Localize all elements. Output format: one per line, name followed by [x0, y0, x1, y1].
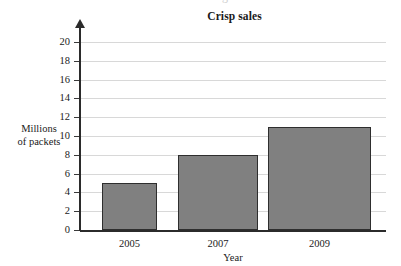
y-axis-tick-label: 20 — [44, 37, 70, 47]
x-axis-title: Year — [80, 252, 386, 263]
y-axis-line — [79, 26, 81, 231]
y-axis-tick-label: 16 — [44, 75, 70, 85]
y-axis-tick-label: 8 — [44, 150, 70, 160]
y-axis-title-line-1: Millions — [4, 122, 74, 135]
bar — [178, 155, 258, 230]
y-axis-tick-label: 6 — [44, 169, 70, 179]
x-axis-tick-label: 2007 — [178, 238, 258, 249]
y-axis-title-line-2: of packets — [4, 135, 74, 148]
bar — [102, 183, 157, 230]
y-axis-tick-label: 12 — [44, 112, 70, 122]
plot-area: 02468101214161820 200520072009 Millions … — [0, 0, 401, 266]
gridline — [80, 42, 386, 43]
y-axis-title: Millions of packets — [4, 122, 74, 148]
y-axis-arrow-icon — [75, 19, 85, 28]
y-axis-tick-label: 18 — [44, 56, 70, 66]
bar — [268, 127, 371, 230]
gridline — [80, 117, 386, 118]
y-axis-tick-label: 0 — [44, 225, 70, 235]
gridline — [80, 98, 386, 99]
y-axis-tick-label: 14 — [44, 93, 70, 103]
x-axis-tick-label: 2005 — [102, 238, 157, 249]
x-axis-tick-label: 2009 — [268, 238, 371, 249]
gridline — [80, 61, 386, 62]
gridline — [80, 80, 386, 81]
y-axis-tick-label: 4 — [44, 187, 70, 197]
x-axis-line — [80, 230, 386, 232]
y-axis-tick-label: 2 — [44, 206, 70, 216]
